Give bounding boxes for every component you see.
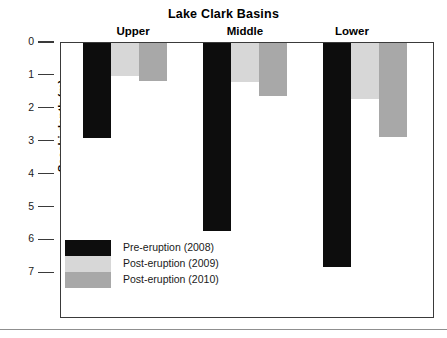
y-tick-label-0: 0: [8, 36, 34, 46]
y-tick-label-6: 6: [8, 233, 34, 243]
y-tick-0: [38, 41, 54, 42]
legend-item: Post-eruption (2010): [65, 272, 265, 288]
y-tick-1: [38, 74, 54, 75]
legend-label-pre-eruption-2008: Pre-eruption (2008): [123, 241, 214, 253]
group-label-upper: Upper: [93, 25, 173, 37]
y-tick-label-2: 2: [8, 102, 34, 112]
legend-swatch-post-eruption-2010: [65, 272, 111, 288]
chart-title: Lake Clark Basins: [0, 7, 447, 21]
bar-middle-series2: [231, 43, 259, 82]
bar-upper-series3: [139, 43, 167, 81]
y-tick-label-5: 5: [8, 201, 34, 211]
legend-label-post-eruption-2010: Post-eruption (2010): [123, 273, 219, 285]
footer-divider: [0, 329, 447, 330]
bar-lower-series1: [323, 43, 351, 267]
group-label-lower: Lower: [312, 25, 392, 37]
y-tick-3: [38, 140, 54, 141]
legend-item: Post-eruption (2009): [65, 256, 265, 272]
y-tick-2: [38, 107, 54, 108]
y-tick-label-4: 4: [8, 168, 34, 178]
y-tick-6: [38, 239, 54, 240]
legend-swatch-pre-eruption-2008: [65, 240, 111, 256]
chart-figure: Lake Clark Basins Upper Middle Lower Sec…: [0, 0, 447, 338]
legend-label-post-eruption-2009: Post-eruption (2009): [123, 257, 219, 269]
bar-lower-series3: [379, 43, 407, 137]
bar-upper-series2: [111, 43, 139, 76]
chart-legend: Pre-eruption (2008) Post-eruption (2009)…: [65, 240, 265, 288]
y-tick-label-7: 7: [8, 266, 34, 276]
y-tick-4: [38, 173, 54, 174]
legend-item: Pre-eruption (2008): [65, 240, 265, 256]
bar-middle-series3: [259, 43, 287, 96]
y-tick-label-1: 1: [8, 69, 34, 79]
bar-middle-series1: [203, 43, 231, 231]
y-tick-5: [38, 206, 54, 207]
y-tick-label-3: 3: [8, 135, 34, 145]
group-label-middle: Middle: [205, 25, 285, 37]
y-tick-7: [38, 272, 54, 273]
bar-lower-series2: [351, 43, 379, 99]
bar-upper-series1: [83, 43, 111, 138]
plot-area: Pre-eruption (2008) Post-eruption (2009)…: [60, 42, 434, 318]
legend-swatch-post-eruption-2009: [65, 256, 111, 272]
